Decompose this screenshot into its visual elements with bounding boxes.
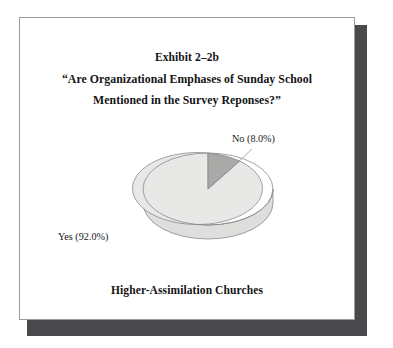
pie-label-yes: Yes (92.0%) <box>58 231 108 243</box>
figure-caption: Higher-Assimilation Churches <box>20 284 354 296</box>
figure-page-inner: Exhibit 2–2b “Are Organizational Emphase… <box>20 18 354 319</box>
figure-root: Exhibit 2–2b “Are Organizational Emphase… <box>0 0 393 348</box>
figure-page-frame: Exhibit 2–2b “Are Organizational Emphase… <box>19 17 355 320</box>
pie-slice-yes <box>132 153 262 225</box>
pie-chart: No (8.0%) Yes (92.0%) <box>20 18 356 321</box>
pie-label-no: No (8.0%) <box>232 133 275 145</box>
